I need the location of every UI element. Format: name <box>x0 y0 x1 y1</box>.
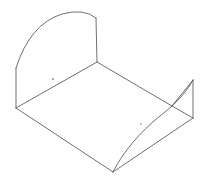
vertex-dot-upper-left <box>52 78 54 80</box>
isometric-line-drawing <box>0 0 206 190</box>
flap-lower-edge <box>172 106 193 118</box>
base-bottom-right-edge <box>113 118 193 172</box>
base-top-right-edge <box>97 62 172 106</box>
base-top-left-edge <box>16 62 97 108</box>
vertex-dot-lower-right <box>140 123 142 125</box>
arc-top-edge <box>16 12 96 68</box>
flap-left-edge <box>172 80 193 106</box>
drawing-canvas <box>0 0 206 190</box>
panel-right-vertical-edge <box>96 18 97 62</box>
base-bottom-left-edge <box>16 108 113 172</box>
